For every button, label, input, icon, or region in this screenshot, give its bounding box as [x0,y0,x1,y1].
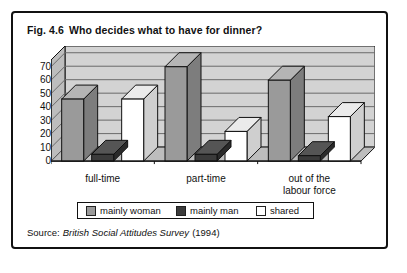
x-axis-labels: full-timepart-timeout of the labour forc… [27,173,375,201]
legend-label: mainly woman [100,206,161,216]
y-tick-label: 60 [29,75,51,85]
bar-chart-plot [51,46,375,172]
chart-legend: mainly womanmainly manshared [77,202,314,219]
y-tick-label: 0 [29,156,51,166]
source-publication: British Social Attitudes Survey [63,227,189,238]
source-year: (1994) [192,227,219,238]
x-axis-category-label: part-time [154,173,257,185]
y-tick-label: 50 [29,89,51,99]
x-axis-category-label: out of the labour force [258,173,361,196]
chart-area: 010203040506070 [27,46,375,172]
bar-shared-full-time [122,85,158,161]
legend-item: mainly woman [86,205,161,217]
x-axis-category-label: full-time [51,173,154,185]
legend-swatch-mainly-man [176,206,186,216]
figure-title-text: Who decides what to have for dinner? [69,24,262,36]
legend-label: mainly man [190,206,239,216]
figure-frame: Fig. 4.6Who decides what to have for din… [11,11,388,249]
y-tick-label: 40 [29,102,51,112]
legend-label: shared [270,206,299,216]
legend-swatch-shared [256,206,266,216]
figure-number: Fig. 4.6 [27,24,64,36]
source-note: Source:British Social Attitudes Survey(1… [27,227,220,238]
y-tick-label: 30 [29,116,51,126]
bar-mainly-woman-part-time [165,53,201,161]
legend-swatch-mainly-woman [86,206,96,216]
y-axis: 010203040506070 [27,46,51,172]
source-label: Source: [27,227,60,238]
y-tick-label: 20 [29,129,51,139]
y-tick-label: 10 [29,143,51,153]
bar-mainly-woman-out-of-the-labour-force [268,66,304,161]
y-tick-label: 70 [29,62,51,72]
legend-item: mainly man [176,205,239,217]
legend-item: shared [256,205,299,217]
bar-shared-out-of-the-labour-force [328,103,364,161]
bar-mainly-woman-full-time [62,85,98,161]
page-title: Fig. 4.6Who decides what to have for din… [27,24,262,36]
